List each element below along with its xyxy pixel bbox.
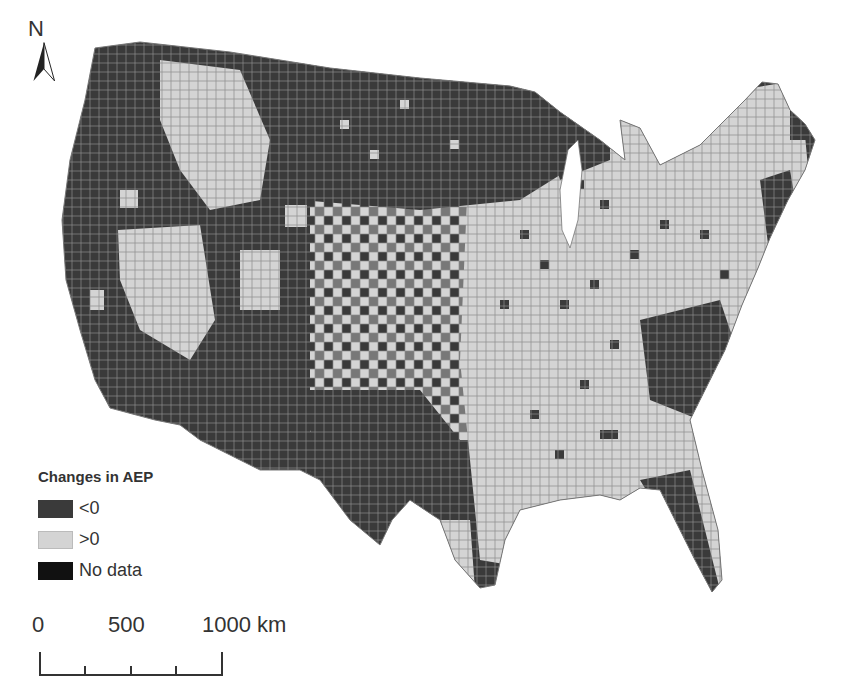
legend-swatch xyxy=(38,500,73,518)
scale-bar: 0 500 1000 km xyxy=(30,612,290,682)
us-county-map xyxy=(0,0,859,690)
legend-title: Changes in AEP xyxy=(38,468,153,485)
legend-label: <0 xyxy=(79,498,100,519)
legend-item-positive: >0 xyxy=(38,524,153,555)
legend-label: >0 xyxy=(79,529,100,550)
legend: Changes in AEP <0 >0 No data xyxy=(38,468,153,586)
legend-item-no-data: No data xyxy=(38,555,153,586)
scale-tick-0: 0 xyxy=(32,612,44,638)
legend-item-negative: <0 xyxy=(38,493,153,524)
legend-swatch xyxy=(38,531,73,549)
north-arrow-icon xyxy=(24,40,64,106)
north-label: N xyxy=(28,16,44,42)
legend-label: No data xyxy=(79,560,142,581)
scale-bar-line xyxy=(38,650,238,680)
county-choropleth xyxy=(0,0,859,690)
scale-tick-1000: 1000 km xyxy=(202,612,286,638)
scale-tick-500: 500 xyxy=(108,612,145,638)
legend-swatch xyxy=(38,562,73,580)
